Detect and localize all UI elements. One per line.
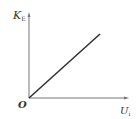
origin-label: O	[18, 100, 27, 110]
y-axis-arrow-icon	[28, 12, 31, 17]
x-axis-label: Ui	[120, 106, 130, 117]
chart: KE O Ui	[0, 0, 137, 119]
y-axis-label: KE	[13, 10, 26, 22]
x-axis-arrow-icon	[124, 97, 129, 100]
data-line	[29, 34, 100, 98]
